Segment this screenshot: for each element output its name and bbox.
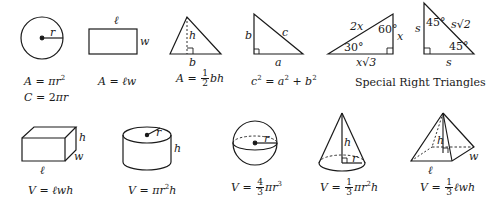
cylinder-figure <box>123 127 171 170</box>
angle-30-label: 30° <box>344 42 364 53</box>
cylinder-volume-formula: V = πr2h <box>128 185 176 196</box>
leg-s-bottom-label: s <box>446 57 452 68</box>
circle-figure <box>21 17 63 59</box>
cone-height-label: h <box>344 137 351 148</box>
pyramid-length-label: ℓ <box>428 165 433 176</box>
triangle-area-formula: A = 12bh <box>176 69 224 88</box>
cone-figure <box>319 113 365 171</box>
box-length-label: ℓ <box>40 165 45 176</box>
cone-radius-label: r <box>352 153 357 164</box>
rectangle-area-formula: A = ℓw <box>98 76 136 87</box>
triangle-height-label: h <box>189 30 196 41</box>
sphere-figure <box>233 121 277 165</box>
rectangle-figure <box>89 29 137 54</box>
sphere-radius-label: r <box>264 133 269 144</box>
cylinder-radius-label: r <box>156 127 161 138</box>
cone-volume-formula: V = 13πr2h <box>320 178 378 197</box>
circle-area-formula: A = πr2 <box>24 76 65 87</box>
right-triangle-c-label: c <box>282 27 288 38</box>
circle-radius-label: r <box>50 27 55 38</box>
cylinder-height-label: h <box>174 143 181 154</box>
hypotenuse-s-root2-label: s√2 <box>451 19 471 30</box>
sphere-volume-formula: V = 43πr3 <box>231 178 282 197</box>
triangle-base-label: b <box>189 57 196 68</box>
box-volume-formula: V = ℓwh <box>28 185 73 196</box>
pyramid-volume-formula: V = 13ℓwh <box>420 178 475 197</box>
pythagorean-formula: c2 = a2 + b2 <box>251 76 317 87</box>
long-leg-x-root3-label: x√3 <box>356 57 376 68</box>
box-height-label: h <box>79 132 86 143</box>
angle-45-top-label: 45° <box>426 17 446 28</box>
right-triangle-b-label: b <box>245 30 252 41</box>
box-width-label: w <box>74 151 83 162</box>
angle-45-bottom-label: 45° <box>449 41 469 52</box>
leg-s-side-label: s <box>415 23 421 34</box>
circle-circumference-formula: C = 2πr <box>24 92 68 103</box>
right-triangle-figure <box>254 14 303 54</box>
rectangle-width-label: w <box>140 36 149 47</box>
right-triangle-a-label: a <box>275 57 282 68</box>
angle-60-label: 60° <box>378 24 398 35</box>
special-right-triangles-caption: Special Right Triangles <box>355 77 486 88</box>
box-figure <box>22 127 76 161</box>
short-leg-x-label: x <box>397 31 403 42</box>
pyramid-width-label: w <box>469 151 478 162</box>
rectangle-length-label: ℓ <box>114 15 119 26</box>
hypotenuse-2x-label: 2x <box>350 21 363 32</box>
pyramid-height-label: h <box>437 135 444 146</box>
